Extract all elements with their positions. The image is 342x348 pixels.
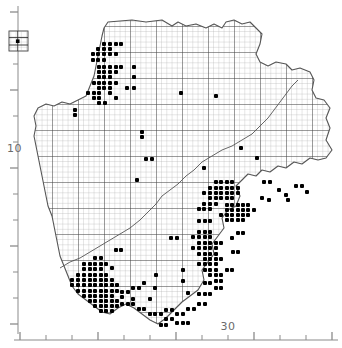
presence-dot <box>230 203 234 207</box>
presence-dot <box>114 42 118 46</box>
presence-dot <box>103 101 107 105</box>
presence-dot <box>91 52 95 56</box>
presence-dot <box>225 203 229 207</box>
presence-dot <box>148 312 152 316</box>
presence-dot <box>108 47 112 51</box>
presence-dot <box>236 250 240 254</box>
presence-dot <box>88 294 92 298</box>
presence-dot <box>108 75 112 79</box>
presence-dot <box>93 289 97 293</box>
presence-dot <box>131 297 135 301</box>
presence-dot <box>88 299 92 303</box>
presence-dot <box>208 186 212 190</box>
presence-dot <box>92 96 96 100</box>
presence-dot <box>208 262 212 266</box>
presence-dot <box>241 218 245 222</box>
easting-axis-label: 30 <box>221 320 236 333</box>
presence-dot <box>241 231 245 235</box>
presence-dot <box>225 218 229 222</box>
presence-dot <box>126 290 130 294</box>
presence-dot <box>239 146 243 150</box>
presence-dot <box>230 268 234 272</box>
presence-dot <box>268 180 272 184</box>
presence-dot <box>93 267 97 271</box>
presence-dot <box>132 65 136 69</box>
presence-dot <box>120 295 124 299</box>
presence-dot <box>99 309 103 313</box>
presence-dot <box>197 235 201 239</box>
presence-dot <box>214 241 218 245</box>
presence-dot <box>186 321 190 325</box>
presence-dot <box>246 203 250 207</box>
presence-dot <box>225 213 229 217</box>
presence-dot <box>219 257 223 261</box>
presence-dot <box>99 256 103 260</box>
presence-dot <box>214 257 218 261</box>
presence-dot <box>214 191 218 195</box>
presence-dot <box>97 86 101 90</box>
presence-dot <box>142 307 146 311</box>
presence-dot <box>97 75 101 79</box>
presence-dot <box>262 180 266 184</box>
presence-dot <box>82 294 86 298</box>
presence-dot <box>230 208 234 212</box>
presence-dot <box>102 70 106 74</box>
presence-dot <box>88 273 92 277</box>
presence-dot <box>110 309 114 313</box>
presence-dot <box>305 190 309 194</box>
presence-dot <box>93 262 97 266</box>
presence-dot <box>108 42 112 46</box>
presence-dot <box>99 273 103 277</box>
presence-dot <box>202 207 206 211</box>
presence-dot <box>108 70 112 74</box>
presence-dot <box>114 65 118 69</box>
presence-dot <box>255 156 259 160</box>
presence-dot <box>214 252 218 256</box>
presence-dot <box>214 268 218 272</box>
presence-dot <box>219 273 223 277</box>
presence-dot <box>197 207 201 211</box>
presence-dot <box>153 286 157 290</box>
presence-dot <box>76 283 80 287</box>
presence-dot <box>208 273 212 277</box>
presence-dot <box>99 278 103 282</box>
presence-dot <box>208 257 212 261</box>
presence-dot <box>225 196 229 200</box>
presence-dot <box>110 289 114 293</box>
presence-dot <box>104 309 108 313</box>
presence-dot <box>208 196 212 200</box>
presence-dot <box>150 157 154 161</box>
presence-dot <box>225 268 229 272</box>
presence-dot <box>102 75 106 79</box>
presence-dot <box>236 213 240 217</box>
presence-dot <box>104 283 108 287</box>
presence-dot <box>76 278 80 282</box>
presence-dot <box>219 279 223 283</box>
presence-dot <box>119 42 123 46</box>
presence-dot <box>137 286 141 290</box>
presence-dot <box>203 257 207 261</box>
presence-dot <box>108 52 112 56</box>
presence-dot <box>203 246 207 250</box>
presence-dot <box>181 268 185 272</box>
presence-dot <box>197 262 201 266</box>
presence-dot <box>236 203 240 207</box>
presence-dot <box>191 246 195 250</box>
presence-dot <box>82 289 86 293</box>
presence-dot <box>142 281 146 285</box>
presence-dot <box>225 186 229 190</box>
presence-dot <box>203 281 207 285</box>
presence-dot <box>230 191 234 195</box>
northing-axis-label: 10 <box>7 142 22 155</box>
presence-dot <box>102 52 106 56</box>
presence-dot <box>179 91 183 95</box>
presence-dot <box>219 241 223 245</box>
presence-dot <box>82 278 86 282</box>
presence-dot <box>236 191 240 195</box>
presence-dot <box>241 208 245 212</box>
presence-dot <box>159 323 163 327</box>
presence-dot <box>99 299 103 303</box>
legend-sample-dot <box>16 39 20 43</box>
presence-dot <box>175 321 179 325</box>
presence-dot <box>104 289 108 293</box>
